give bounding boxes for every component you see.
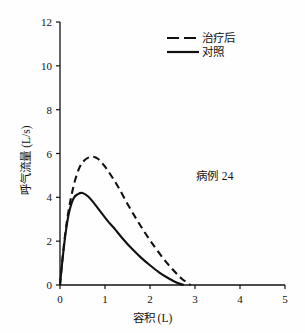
x-tick-label: 4 [237,294,243,305]
x-tick-label: 0 [57,294,63,305]
flow-volume-chart: 024681012 012345 呼气流量 (L/s) 容积 (L) 病例 24… [0,0,305,333]
x-tick-label: 3 [192,294,198,305]
y-tick-label: 10 [28,60,52,71]
series-line-control [60,193,184,285]
y-tick-label: 0 [28,280,52,291]
series-line-treated [60,157,191,285]
y-tick-label: 12 [28,17,52,28]
legend-label-control: 对照 [202,46,224,58]
legend-item-control: 对照 [167,45,277,59]
x-tick-label: 1 [102,294,108,305]
chart-legend: 治疗后 对照 [167,31,277,59]
y-tick-label: 2 [28,236,52,247]
legend-item-treated: 治疗后 [167,31,277,45]
x-tick-label: 5 [282,294,288,305]
legend-solid-line-icon [167,46,199,58]
legend-dashed-line-icon [167,32,199,44]
legend-label-treated: 治疗后 [202,32,235,44]
x-axis-title: 容积 (L) [0,312,305,324]
x-tick-label: 2 [147,294,153,305]
y-axis-title: 呼气流量 (L/s) [20,100,32,220]
axis-lines [60,22,285,285]
case-annotation: 病例 24 [196,170,234,183]
